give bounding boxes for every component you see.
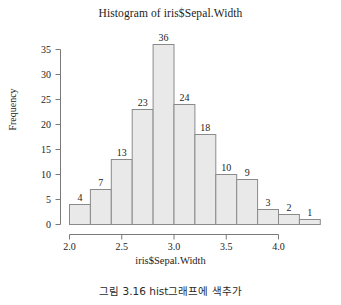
histogram-bar: [111, 160, 132, 225]
y-axis-title: Frequency: [7, 70, 18, 150]
bar-value-label: 18: [200, 122, 210, 133]
bar-value-label: 9: [245, 167, 250, 178]
histogram-bar: [153, 45, 174, 225]
x-axis-tick-label: 2.0: [63, 241, 76, 252]
bar-value-label: 4: [77, 192, 82, 203]
histogram-bar: [299, 220, 320, 225]
bars-group: [70, 45, 321, 225]
histogram-bar: [195, 135, 216, 225]
bar-value-label: 23: [138, 97, 148, 108]
y-axis: 05101520253035: [41, 44, 61, 230]
histogram-bar: [216, 175, 237, 225]
figure-caption: 그림 3.16 hist그래프에 색추가: [0, 283, 341, 298]
histogram-bar: [174, 105, 195, 225]
y-axis-tick-label: 35: [41, 44, 51, 55]
x-axis: 2.02.53.03.54.0: [63, 235, 285, 252]
bar-value-label: 24: [179, 92, 189, 103]
histogram-bar: [258, 210, 279, 225]
bar-value-label: 36: [159, 32, 169, 43]
y-axis-tick-label: 5: [46, 194, 51, 205]
y-axis-tick-label: 0: [46, 219, 51, 230]
histogram-bar: [237, 180, 258, 225]
bar-value-label: 13: [117, 147, 127, 158]
bar-value-label: 10: [221, 162, 231, 173]
figure-page: Histogram of iris$Sepal.Width 4713233624…: [0, 0, 341, 305]
y-axis-tick-label: 15: [41, 144, 51, 155]
bar-value-label: 3: [266, 197, 271, 208]
x-axis-tick-label: 4.0: [272, 241, 285, 252]
bar-value-label: 1: [307, 207, 312, 218]
histogram-bar: [90, 190, 111, 225]
x-axis-tick-label: 3.5: [220, 241, 233, 252]
y-axis-tick-label: 20: [41, 119, 51, 130]
bar-value-label: 2: [286, 202, 291, 213]
y-axis-tick-label: 10: [41, 169, 51, 180]
histogram-bar: [132, 110, 153, 225]
y-axis-tick-label: 30: [41, 69, 51, 80]
y-axis-tick-label: 25: [41, 94, 51, 105]
x-axis-title: iris$Sepal.Width: [0, 255, 341, 266]
histogram-bar: [70, 205, 91, 225]
x-axis-tick-label: 3.0: [168, 241, 181, 252]
bar-value-label: 7: [98, 177, 103, 188]
histogram-bar: [279, 215, 300, 225]
x-axis-tick-label: 2.5: [116, 241, 129, 252]
